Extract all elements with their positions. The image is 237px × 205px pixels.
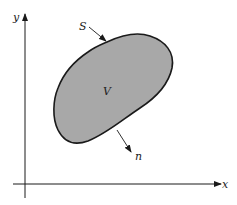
normal-label: n (135, 150, 142, 163)
surface-pointer-arrow (89, 27, 106, 41)
y-axis-label: y (12, 11, 20, 24)
region-label: V (103, 85, 112, 98)
normal-vector-arrow (117, 130, 131, 152)
surface-label: S (79, 20, 87, 33)
region-v (54, 34, 173, 143)
diagram-canvas: y x V S n (0, 0, 237, 205)
x-axis-label: x (222, 178, 229, 191)
